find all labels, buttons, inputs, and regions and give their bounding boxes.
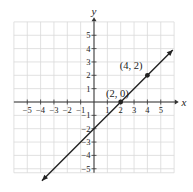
data-point: [118, 100, 123, 105]
svg-text:−4: −4: [36, 105, 46, 115]
y-axis-label: y: [91, 5, 97, 17]
point-label: (4, 2): [120, 60, 143, 72]
svg-text:−3: −3: [49, 105, 58, 115]
svg-text:−1: −1: [81, 110, 90, 120]
svg-text:2: 2: [86, 70, 90, 80]
svg-text:2: 2: [119, 105, 123, 115]
point-label: (2, 0): [106, 88, 129, 100]
svg-text:1: 1: [86, 84, 90, 94]
svg-text:−2: −2: [81, 124, 90, 134]
svg-text:−4: −4: [81, 150, 91, 160]
svg-text:3: 3: [132, 105, 136, 115]
svg-text:−2: −2: [63, 105, 72, 115]
data-points: (2, 0)(4, 2): [106, 60, 150, 104]
svg-text:−5: −5: [23, 105, 32, 115]
svg-text:5: 5: [159, 105, 163, 115]
svg-text:−5: −5: [81, 164, 90, 174]
svg-text:4: 4: [145, 105, 150, 115]
coordinate-plane: −5−4−3−2−11234554321−1−2−3−4−5 (2, 0)(4,…: [0, 0, 193, 192]
data-point: [145, 73, 150, 78]
svg-text:−3: −3: [81, 137, 90, 147]
svg-text:5: 5: [86, 30, 90, 40]
axes: [14, 17, 179, 173]
svg-text:3: 3: [86, 57, 90, 67]
x-axis-label: x: [180, 96, 186, 108]
